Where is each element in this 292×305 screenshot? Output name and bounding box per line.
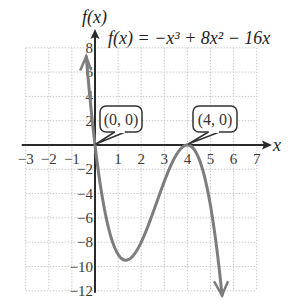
function-curve bbox=[86, 56, 222, 295]
x-tick-label: −3 bbox=[18, 151, 34, 167]
callout-origin: (0, 0) bbox=[96, 106, 142, 144]
x-tick-label: −2 bbox=[41, 151, 57, 167]
function-graph: −3−2−112345678642−2−4−6−8−10−12 (0, 0)(4… bbox=[0, 0, 292, 305]
equation-title: f(x) = −x³ + 8x² − 16x bbox=[108, 28, 270, 49]
y-tick-label: −12 bbox=[70, 283, 93, 299]
y-tick-label: −2 bbox=[77, 161, 93, 177]
y-axis-label: f(x) bbox=[82, 7, 107, 28]
y-tick-label: 8 bbox=[86, 40, 94, 56]
y-tick-label: −10 bbox=[70, 259, 93, 275]
x-tick-label: 7 bbox=[253, 151, 261, 167]
callout-root-4-text: (4, 0) bbox=[198, 111, 233, 129]
x-tick-label: 2 bbox=[137, 151, 145, 167]
y-tick-label: −4 bbox=[77, 186, 93, 202]
x-tick-label: 3 bbox=[161, 151, 169, 167]
callout-origin-text: (0, 0) bbox=[104, 111, 139, 129]
y-tick-label: −8 bbox=[77, 234, 93, 250]
y-tick-label: −6 bbox=[77, 210, 93, 226]
callout-root-4: (4, 0) bbox=[188, 106, 237, 144]
x-tick-label: 6 bbox=[230, 151, 238, 167]
x-tick-label: 4 bbox=[184, 151, 192, 167]
x-axis-label: x bbox=[272, 135, 281, 155]
x-tick-label: 1 bbox=[114, 151, 122, 167]
grid-lines bbox=[26, 48, 257, 291]
point-callouts: (0, 0)(4, 0) bbox=[96, 106, 237, 144]
x-tick-label: 5 bbox=[207, 151, 215, 167]
